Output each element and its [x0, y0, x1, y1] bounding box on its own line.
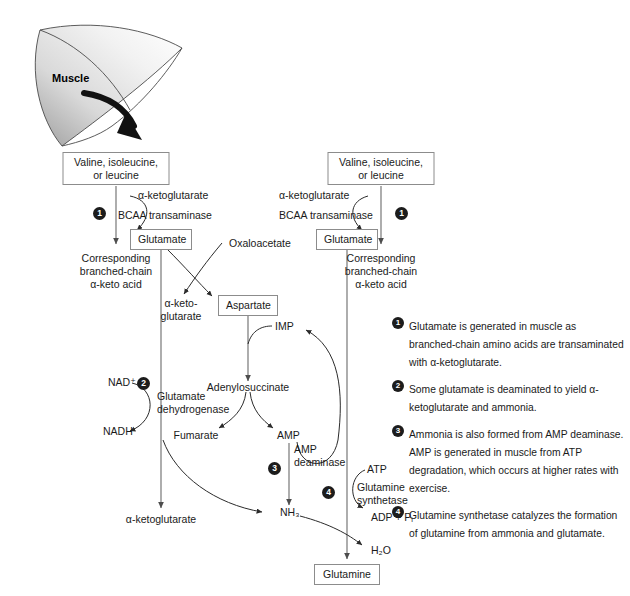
label-ketoacid-right-3: α-keto acid [355, 278, 407, 291]
step-badge-1-right: 1 [395, 207, 408, 220]
label-akg-mid-1: α-keto- [165, 297, 198, 310]
curve-imp-branch [248, 326, 272, 344]
step-badge-3: 3 [268, 462, 281, 475]
legend-badge: 3 [392, 425, 404, 437]
label-amp: AMP [277, 429, 300, 442]
label-adenylosuccinate: Adenylosuccinate [207, 381, 289, 394]
label-nad-plus: NAD⁺ [108, 376, 136, 389]
arrow-nh3-to-h2o [300, 516, 362, 545]
legend: 1Glutamate is generated in muscle as bra… [392, 316, 624, 550]
label-amp-deaminase-1: AMP [294, 443, 317, 456]
step-badge-1-left: 1 [93, 207, 106, 220]
label-glutamate-dehydrogenase-2: dehydrogenase [157, 403, 229, 416]
legend-badge: 2 [392, 380, 404, 392]
label-amp-deaminase-2: deaminase [294, 456, 345, 469]
diagram-canvas: Muscle Valine, isoleucine, or leucine α-… [0, 0, 630, 596]
label-akg-right: α-ketoglutarate [279, 189, 349, 202]
label-fumarate: Fumarate [174, 429, 219, 442]
legend-badge: 1 [392, 317, 404, 329]
muscle-label: Muscle [52, 72, 89, 84]
step-badge-4: 4 [322, 486, 335, 499]
label-akg-mid-2: glutarate [161, 310, 202, 323]
legend-text: Ammonia is also formed from AMP deaminas… [409, 429, 623, 494]
legend-text: Some glutamate is deaminated to yield α-… [409, 384, 599, 413]
muscle-shape [35, 25, 182, 146]
arrow-adenylosuccinate-to-amp [250, 392, 273, 428]
node-aspartate: Aspartate [218, 295, 278, 316]
node-glutamate-right: Glutamate [316, 229, 378, 250]
legend-item: 2Some glutamate is deaminated to yield α… [392, 379, 624, 415]
label-bcaa-transaminase-left: BCAA transaminase [118, 209, 212, 222]
legend-item: 3Ammonia is also formed from AMP deamina… [392, 424, 624, 496]
node-bcaa-left: Valine, isoleucine, or leucine [63, 152, 170, 185]
label-akg-left: α-ketoglutarate [138, 189, 208, 202]
arrow-glutamate-left-to-nh3 [163, 440, 262, 512]
legend-text: Glutamate is generated in muscle as bran… [409, 321, 624, 368]
arrow-nad-to-nadh [130, 383, 150, 431]
label-nadh: NADH [103, 425, 133, 438]
label-akg-bottom: α-ketoglutarate [126, 513, 196, 526]
bcaa-left-line1: Valine, isoleucine, or leucine [74, 156, 158, 181]
step-badge-2: 2 [137, 377, 150, 390]
label-imp: IMP [275, 320, 294, 333]
label-ketoacid-left-1: Corresponding [82, 252, 151, 265]
label-ketoacid-right-2: branched-chain [345, 265, 417, 278]
node-bcaa-right: Valine, isoleucine, or leucine [328, 152, 435, 185]
label-glutamate-dehydrogenase-1: Glutamate [157, 390, 205, 403]
node-glutamate-left: Glutamate [130, 229, 192, 250]
bcaa-right-line1: Valine, isoleucine, or leucine [339, 156, 423, 181]
label-bcaa-transaminase-right: BCAA transaminase [279, 209, 373, 222]
label-ketoacid-right-1: Corresponding [347, 252, 416, 265]
legend-badge: 4 [392, 506, 404, 518]
label-h2o: H₂O [371, 544, 391, 557]
label-nh3: NH₃ [280, 506, 299, 519]
label-ketoacid-left-2: branched-chain [80, 265, 152, 278]
node-glutamine: Glutamine [314, 564, 380, 585]
label-atp: ATP [367, 463, 387, 476]
arrow-glutamate-to-aspartate [166, 248, 212, 296]
label-oxaloacetate: Oxaloacetate [229, 237, 291, 250]
label-ketoacid-left-3: α-keto acid [90, 278, 142, 291]
legend-item: 4Glutamine synthetase catalyzes the form… [392, 505, 624, 541]
legend-text: Glutamine synthetase catalyzes the forma… [409, 510, 617, 539]
legend-item: 1Glutamate is generated in muscle as bra… [392, 316, 624, 370]
